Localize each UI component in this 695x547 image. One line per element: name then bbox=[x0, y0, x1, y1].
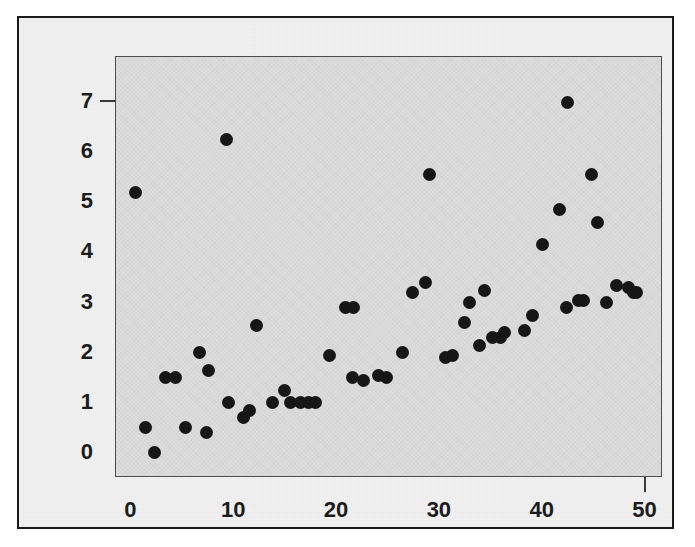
data-point bbox=[561, 96, 574, 109]
y-tick-label: 2 bbox=[51, 339, 93, 365]
y-tick-label: 5 bbox=[51, 188, 93, 214]
x-tick-label: 40 bbox=[529, 497, 553, 523]
y-tick-label: 1 bbox=[51, 389, 93, 415]
data-point bbox=[129, 186, 142, 199]
x-tick-label: 20 bbox=[324, 497, 348, 523]
data-point bbox=[600, 296, 613, 309]
data-point bbox=[498, 326, 511, 339]
plot-texture bbox=[116, 57, 661, 476]
data-point bbox=[553, 203, 566, 216]
data-point bbox=[250, 319, 263, 332]
data-point bbox=[577, 294, 590, 307]
x-tick-label: 10 bbox=[221, 497, 245, 523]
data-point bbox=[323, 349, 336, 362]
data-point bbox=[463, 296, 476, 309]
data-point bbox=[560, 301, 573, 314]
data-point bbox=[200, 426, 213, 439]
x-tick-label: 50 bbox=[632, 497, 656, 523]
data-point bbox=[478, 284, 491, 297]
data-point bbox=[630, 286, 643, 299]
y-tick-label: 3 bbox=[51, 289, 93, 315]
y-tick-label: 6 bbox=[51, 138, 93, 164]
y-tick-label: 0 bbox=[51, 439, 93, 465]
data-point bbox=[458, 316, 471, 329]
data-point bbox=[139, 421, 152, 434]
data-point bbox=[518, 324, 531, 337]
y-tick-mark bbox=[100, 100, 115, 102]
y-tick-label: 4 bbox=[51, 238, 93, 264]
data-point bbox=[473, 339, 486, 352]
data-point bbox=[169, 371, 182, 384]
data-point bbox=[446, 349, 459, 362]
plot-area bbox=[115, 56, 662, 477]
data-point bbox=[220, 133, 233, 146]
data-point bbox=[193, 346, 206, 359]
figure-card: 76543210 01020304050 bbox=[17, 16, 674, 529]
y-tick-label: 7 bbox=[51, 88, 93, 114]
data-point bbox=[396, 346, 409, 359]
data-point bbox=[423, 168, 436, 181]
data-point bbox=[526, 309, 539, 322]
x-tick-label: 0 bbox=[124, 497, 136, 523]
scatter-plot-figure: 76543210 01020304050 bbox=[0, 0, 695, 547]
data-point bbox=[536, 238, 549, 251]
data-point bbox=[202, 364, 215, 377]
data-point bbox=[148, 446, 161, 459]
data-point bbox=[357, 374, 370, 387]
data-point bbox=[380, 371, 393, 384]
data-point bbox=[309, 396, 322, 409]
data-point bbox=[347, 301, 360, 314]
x-tick-mark bbox=[644, 477, 646, 492]
data-point bbox=[591, 216, 604, 229]
data-point bbox=[419, 276, 432, 289]
data-point bbox=[179, 421, 192, 434]
data-point bbox=[243, 404, 256, 417]
data-point bbox=[585, 168, 598, 181]
data-point bbox=[222, 396, 235, 409]
x-tick-label: 30 bbox=[427, 497, 451, 523]
data-point bbox=[278, 384, 291, 397]
data-point bbox=[266, 396, 279, 409]
data-point bbox=[406, 286, 419, 299]
